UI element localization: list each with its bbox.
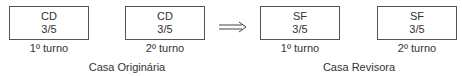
turno-label: 2º turno: [377, 42, 457, 55]
casa-revisora-label: Casa Revisora: [279, 61, 439, 74]
turno-label: 2º turno: [125, 42, 205, 55]
box-code: CD: [10, 10, 88, 23]
box-ratio: 3/5: [126, 23, 204, 36]
box-casa-revisora-turno-2: SF 3/5: [377, 6, 457, 40]
box-ratio: 3/5: [10, 23, 88, 36]
casa-originaria-label: Casa Originária: [47, 61, 207, 74]
box-code: SF: [378, 10, 456, 23]
box-casa-originaria-turno-1: CD 3/5: [9, 6, 89, 40]
box-ratio: 3/5: [261, 23, 339, 36]
box-casa-revisora-turno-1: SF 3/5: [260, 6, 340, 40]
box-ratio: 3/5: [378, 23, 456, 36]
box-code: CD: [126, 10, 204, 23]
turno-label: 1º turno: [260, 42, 340, 55]
implies-arrow-icon: [218, 20, 248, 34]
box-code: SF: [261, 10, 339, 23]
turno-label: 1º turno: [9, 42, 89, 55]
box-casa-originaria-turno-2: CD 3/5: [125, 6, 205, 40]
